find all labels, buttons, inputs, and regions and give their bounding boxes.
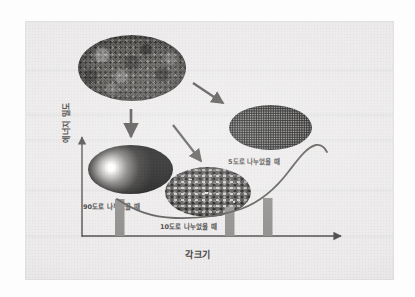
- chart-energy-density-curve: [117, 145, 327, 218]
- chart-bar: [115, 199, 125, 236]
- chart-x-axis-label: 각크기: [185, 248, 211, 261]
- chart-y-axis-label: 에너지 밀도: [60, 81, 71, 165]
- arrow-source-to-5deg: [193, 83, 223, 103]
- scanned-figure-panel: 5도로 나누었을 때 90도로 나누었을 때 10도로 나누었을 때: [25, 21, 394, 280]
- chart-bar: [263, 198, 273, 236]
- arrow-source-to-10deg: [173, 125, 201, 161]
- figure-root: 5도로 나누었을 때 90도로 나누었을 때 10도로 나누었을 때: [0, 0, 415, 297]
- figure-vector-art: [25, 21, 394, 280]
